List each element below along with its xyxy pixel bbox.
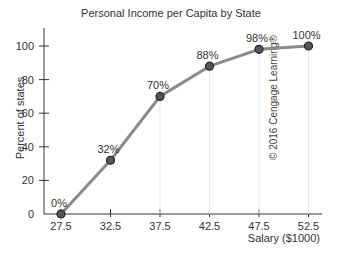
data-point-marker (107, 156, 115, 164)
data-point-label: 98% (246, 32, 268, 44)
series-line (61, 46, 309, 214)
y-tick-label: 80 (22, 74, 34, 86)
y-tick-label: 60 (22, 107, 34, 119)
x-tick-label: 27.5 (50, 220, 71, 232)
data-point-marker (57, 210, 65, 218)
x-tick-label: 47.5 (248, 220, 269, 232)
x-tick-label: 37.5 (149, 220, 170, 232)
x-tick-label: 52.5 (298, 220, 319, 232)
y-tick-label: 20 (22, 174, 34, 186)
data-series: 0%32%70%88%98%100% (51, 29, 321, 218)
data-point-marker (156, 92, 164, 100)
data-point-marker (305, 42, 313, 50)
data-point-label: 88% (196, 49, 218, 61)
x-tick-label: 32.5 (100, 220, 121, 232)
y-tick-label: 100 (16, 40, 34, 52)
data-point-marker (255, 45, 263, 53)
y-tick-label: 40 (22, 141, 34, 153)
data-point-label: 0% (51, 197, 67, 209)
y-tick-label: 0 (28, 208, 34, 220)
data-point-label: 70% (147, 79, 169, 91)
data-point-marker (206, 62, 214, 70)
x-tick-label: 42.5 (199, 220, 220, 232)
data-point-label: 100% (292, 29, 320, 41)
chart-plot: 02040608010027.532.537.542.547.552.5 0%3… (0, 0, 342, 254)
data-point-label: 32% (97, 143, 119, 155)
